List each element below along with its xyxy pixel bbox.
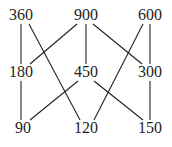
node-600: 600 <box>138 6 162 23</box>
node-900: 900 <box>74 6 98 23</box>
node-150: 150 <box>138 119 162 136</box>
node-180: 180 <box>9 63 33 80</box>
edge-450-90 <box>30 81 78 120</box>
node-360: 360 <box>9 6 33 23</box>
edge-900-180 <box>30 24 77 64</box>
edge-900-300 <box>93 24 142 64</box>
node-120: 120 <box>74 119 98 136</box>
edge-450-150 <box>94 81 143 120</box>
edge-600-120 <box>94 24 143 120</box>
node-300: 300 <box>138 63 162 80</box>
node-450: 450 <box>74 63 98 80</box>
node-90: 90 <box>15 119 31 136</box>
edge-360-120 <box>29 24 80 120</box>
factor-diagram: 36090060018045030090120150 <box>0 0 172 147</box>
